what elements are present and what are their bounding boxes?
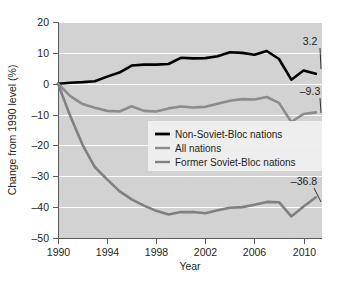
y-tick-label: –40 [31,201,49,213]
x-tick-label: 1994 [96,246,120,258]
y-axis-tick-labels: 20100–10–20–30–40–50 [31,16,49,244]
line-chart: 20100–10–20–30–40–50 1990199419982002200… [0,0,342,284]
x-axis-ticks [59,239,305,244]
y-tick-label: –20 [31,139,49,151]
legend-label: Non-Soviet-Bloc nations [175,129,282,140]
legend-label: All nations [175,143,221,154]
y-axis-ticks [53,23,59,239]
legend-label: Former Soviet-Bloc nations [175,157,296,168]
series-end-label: 3.2 [303,35,318,47]
x-tick-label: 2002 [194,246,218,258]
x-tick-label: 1990 [47,246,71,258]
x-tick-label: 2006 [243,246,267,258]
chart-figure: 20100–10–20–30–40–50 1990199419982002200… [0,0,342,284]
x-axis-tick-labels: 199019941998200220062010 [47,246,317,258]
y-tick-label: 10 [37,47,49,59]
x-axis-title: Year [179,260,201,272]
series-end-label: –36.8 [291,175,317,187]
series-end-label: –9.3 [300,85,321,97]
x-tick-label: 1998 [145,246,169,258]
y-tick-label: –10 [31,109,49,121]
y-tick-label: –50 [31,232,49,244]
x-tick-label: 2010 [293,246,317,258]
y-tick-label: 20 [37,16,49,28]
chart-legend: Non-Soviet-Bloc nationsAll nationsFormer… [148,121,322,171]
y-tick-label: 0 [43,78,49,90]
y-tick-label: –30 [31,170,49,182]
y-axis-title: Change from 1990 level (%) [6,65,18,196]
